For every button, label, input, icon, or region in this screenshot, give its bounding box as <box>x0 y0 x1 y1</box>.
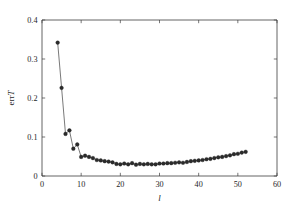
data-point <box>216 155 220 159</box>
x-axis-title: l <box>158 193 161 203</box>
data-point <box>232 152 236 156</box>
data-point <box>56 41 60 45</box>
data-point <box>91 156 95 160</box>
x-tick-label-30: 30 <box>155 180 163 189</box>
data-point <box>240 151 244 155</box>
data-point <box>244 150 248 154</box>
y-tick-label-0.2: 0.2 <box>27 94 37 103</box>
data-point <box>181 161 185 165</box>
data-point <box>107 160 111 164</box>
data-point <box>79 155 83 159</box>
data-point <box>150 162 154 166</box>
data-markers <box>56 41 248 167</box>
data-point <box>158 162 162 166</box>
data-point <box>193 159 197 163</box>
x-tick-label-50: 50 <box>234 180 242 189</box>
x-tick-label-10: 10 <box>77 180 85 189</box>
data-point <box>111 161 115 165</box>
x-tick-label-0: 0 <box>40 180 44 189</box>
data-point <box>64 132 68 136</box>
data-point <box>68 129 72 133</box>
data-point <box>115 162 119 166</box>
data-point <box>142 162 146 166</box>
data-point <box>118 162 122 166</box>
data-point <box>134 163 138 167</box>
y-tick-label-0.3: 0.3 <box>27 55 37 64</box>
data-point <box>122 162 126 166</box>
x-tick-label-60: 60 <box>273 180 281 189</box>
data-point <box>169 161 173 165</box>
data-point <box>220 155 224 159</box>
data-point <box>138 162 142 166</box>
data-point <box>126 162 130 166</box>
data-point <box>224 154 228 158</box>
data-series-errT <box>58 43 246 165</box>
data-point <box>236 152 240 156</box>
data-point <box>228 153 232 157</box>
data-point <box>185 160 189 164</box>
data-point <box>95 158 99 162</box>
data-point <box>146 162 150 166</box>
data-point <box>189 159 193 163</box>
data-point <box>201 158 205 162</box>
data-point <box>165 161 169 165</box>
figure-container: 0102030405060 00.10.20.30.4 lerrT <box>0 0 297 207</box>
data-point <box>99 159 103 163</box>
data-point <box>103 159 107 163</box>
data-point <box>162 162 166 166</box>
data-point <box>209 157 213 161</box>
data-point <box>173 161 177 165</box>
y-tick-label-0.4: 0.4 <box>27 16 37 25</box>
y-axis-title-symbol: T <box>6 90 16 96</box>
data-point <box>75 143 79 147</box>
line-chart: 0102030405060 00.10.20.30.4 lerrT <box>0 0 297 207</box>
data-point <box>205 157 209 161</box>
y-axis-title: errT <box>6 90 16 106</box>
data-point <box>154 162 158 166</box>
data-point <box>83 154 87 158</box>
y-tick-label-0: 0 <box>33 172 37 181</box>
y-tick-label-0.1: 0.1 <box>27 133 37 142</box>
x-axis-tick-labels: 0102030405060 <box>40 180 281 189</box>
data-point <box>130 161 134 165</box>
y-axis-title-prefix: err <box>6 96 16 106</box>
series-line <box>58 43 246 165</box>
x-tick-label-20: 20 <box>116 180 124 189</box>
data-point <box>60 86 64 90</box>
x-tick-label-40: 40 <box>195 180 203 189</box>
data-point <box>87 155 91 159</box>
data-point <box>177 161 181 165</box>
data-point <box>71 147 75 151</box>
y-axis-tick-labels: 00.10.20.30.4 <box>27 16 37 181</box>
data-point <box>197 159 201 163</box>
data-point <box>212 156 216 160</box>
